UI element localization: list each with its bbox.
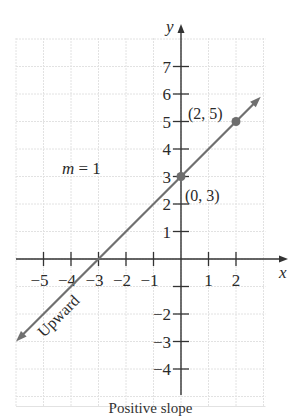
- line-y-equals-x-plus-3: [21, 102, 255, 336]
- y-tick-label: 7: [163, 58, 172, 77]
- figure-caption: Positive slope: [0, 400, 301, 417]
- x-axis-arrow-icon: [279, 256, 288, 263]
- y-tick-label: 5: [163, 113, 172, 132]
- point-label-2-5: (2, 5): [188, 105, 223, 123]
- data-series: [16, 97, 261, 342]
- x-tick-label: −5: [30, 271, 48, 290]
- y-axis-label: y: [164, 17, 174, 36]
- slope-value: = 1: [74, 159, 101, 178]
- y-tick-label: 3: [163, 168, 172, 187]
- x-tick-label: −1: [140, 271, 158, 290]
- data-point: [232, 117, 241, 126]
- x-tick-label: −4: [58, 271, 77, 290]
- slope-symbol: m: [62, 159, 74, 178]
- x-tick-label: 1: [204, 271, 213, 290]
- y-tick-label: −3: [153, 333, 171, 352]
- x-axis-label: x: [278, 263, 287, 282]
- x-tick-label: −2: [113, 271, 131, 290]
- point-label-0-3: (0, 3): [185, 187, 220, 205]
- y-tick-label: −2: [153, 305, 171, 324]
- x-tick-label: −3: [85, 271, 103, 290]
- y-tick-label: −4: [153, 360, 172, 379]
- slope-annotation: m = 1: [62, 159, 101, 178]
- grid-lines: [16, 38, 266, 407]
- y-axis-arrow-icon: [178, 24, 185, 33]
- y-tick-label: 2: [163, 195, 172, 214]
- data-point: [177, 172, 186, 181]
- y-tick-label: 6: [163, 85, 172, 104]
- y-tick-label: 1: [163, 223, 172, 242]
- y-tick-label: 4: [163, 140, 172, 159]
- x-tick-label: 2: [232, 271, 241, 290]
